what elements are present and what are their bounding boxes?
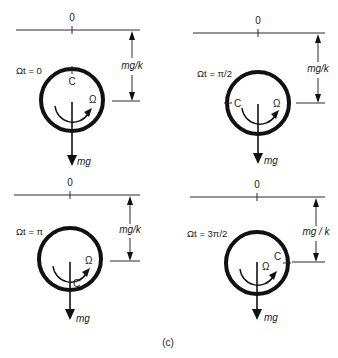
dimension-label: mg/k xyxy=(307,63,330,74)
dimension-label: mg / k xyxy=(302,226,330,237)
panel-phase-pi-over-2: 0 Ωt = π/2 C Ω mg mg/k xyxy=(193,15,330,166)
dimension-arrow-down-icon xyxy=(315,94,321,103)
panel-phase-pi: 0 Ωt = π C Ω mg mg/k xyxy=(14,177,142,324)
weight-arrowhead-icon xyxy=(253,153,263,164)
weight-arrowhead-icon xyxy=(65,309,75,320)
dimension-arrow-up-icon xyxy=(127,196,133,205)
center-label: C xyxy=(234,98,241,109)
dimension-label: mg/k xyxy=(119,224,142,235)
panel-phase-0: 0 Ωt = 0 C Ω mg mg/k xyxy=(16,12,144,167)
dimension-arrow-up-icon xyxy=(313,198,319,207)
phase-label: Ωt = 3π/2 xyxy=(187,228,227,239)
phase-label: Ωt = 0 xyxy=(16,65,42,76)
force-label: mg xyxy=(264,155,278,166)
spin-label: Ω xyxy=(85,255,93,266)
origin-label: 0 xyxy=(254,179,260,190)
phase-label: Ωt = π/2 xyxy=(197,68,232,79)
dimension-arrow-up-icon xyxy=(315,34,321,43)
dimension-arrow-down-icon xyxy=(313,253,319,262)
force-label: mg xyxy=(77,156,91,167)
origin-label: 0 xyxy=(69,12,75,23)
spin-arrowhead-icon xyxy=(82,268,90,277)
spin-label: Ω xyxy=(273,98,281,109)
dimension-label: mg/k xyxy=(121,60,144,71)
center-label: C xyxy=(68,76,75,87)
rotating-disk-diagram: 0 Ωt = 0 C Ω mg mg/k 0 Ωt = π/2 C Ω xyxy=(0,0,338,358)
phase-label: Ωt = π xyxy=(16,226,44,237)
origin-label: 0 xyxy=(67,177,73,188)
weight-arrowhead-icon xyxy=(67,155,77,166)
dimension-arrow-up-icon xyxy=(129,31,135,40)
weight-arrowhead-icon xyxy=(252,309,262,320)
dimension-arrow-down-icon xyxy=(129,92,135,101)
force-label: mg xyxy=(264,312,278,323)
origin-label: 0 xyxy=(255,15,261,26)
spin-label: Ω xyxy=(262,261,270,272)
panel-phase-3pi-over-2: 0 Ωt = 3π/2 C Ω mg mg / k xyxy=(187,179,331,323)
figure-caption: (c) xyxy=(162,337,174,348)
spin-label: Ω xyxy=(89,94,97,105)
spin-arrowhead-icon xyxy=(269,271,277,280)
force-label: mg xyxy=(76,313,90,324)
spin-arrowhead-icon xyxy=(84,108,92,117)
center-label: C xyxy=(274,251,281,262)
dimension-arrow-down-icon xyxy=(127,252,133,261)
spin-arrowhead-icon xyxy=(271,110,279,119)
